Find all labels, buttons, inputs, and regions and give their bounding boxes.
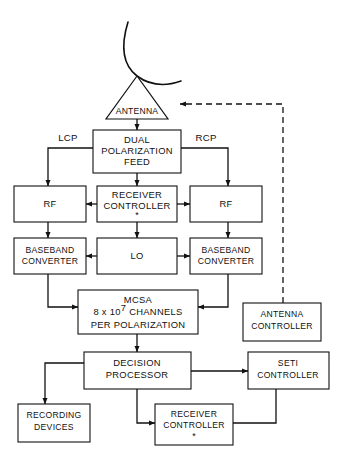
decision-processor-line1: DECISION — [113, 357, 161, 368]
baseband-converter-right-line2: CONVERTER — [198, 256, 255, 266]
parabolic-dish-icon — [124, 22, 181, 85]
receiver-controller-bottom-line2: CONTROLLER — [163, 420, 225, 430]
receiver-controller-bottom-marker: * — [192, 431, 196, 441]
edge-label-lcp: LCP — [58, 132, 78, 143]
node-dual-polarization-feed[interactable]: DUAL POLARIZATION FEED — [93, 130, 181, 173]
node-receiver-controller-bottom[interactable]: RECEIVER CONTROLLER * — [155, 404, 233, 445]
receiver-controller-bottom-line1: RECEIVER — [171, 409, 217, 419]
edge-feed-rcp-to-rf-right — [181, 148, 228, 186]
seti-block-diagram: ANTENNA — [0, 0, 341, 460]
baseband-converter-left-line1: BASEBAND — [25, 245, 74, 255]
receiver-controller-top-marker: * — [135, 210, 139, 220]
rf-right-label: RF — [219, 198, 232, 209]
node-recording-devices[interactable]: RECORDING DEVICES — [18, 404, 90, 442]
seti-controller-line1: SETI — [278, 358, 298, 368]
edge-feed-lcp-to-rf-left — [48, 148, 93, 186]
decision-processor-line2: PROCESSOR — [106, 369, 169, 380]
antenna-group: ANTENNA — [106, 22, 181, 119]
edge-label-rcp: RCP — [195, 132, 216, 143]
dual-polarization-feed-line1: DUAL — [124, 134, 150, 145]
node-seti-controller[interactable]: SETI CONTROLLER — [248, 352, 329, 389]
node-mcsa[interactable]: MCSA 8 x 107 CHANNELS PER POLARIZATION — [78, 290, 198, 334]
node-antenna-controller[interactable]: ANTENNA CONTROLLER — [243, 303, 321, 341]
antenna-controller-line1: ANTENNA — [260, 309, 303, 319]
antenna-controller-line2: CONTROLLER — [251, 321, 313, 331]
dual-polarization-feed-line3: FEED — [124, 156, 150, 167]
node-baseband-converter-left[interactable]: BASEBAND CONVERTER — [14, 238, 86, 274]
recording-devices-line1: RECORDING — [26, 410, 81, 420]
lo-label: LO — [130, 250, 143, 261]
rf-left-label: RF — [43, 198, 56, 209]
recording-devices-line2: DEVICES — [34, 422, 74, 432]
node-lo[interactable]: LO — [97, 238, 177, 274]
edge-decision-processor-to-receiver-controller-bottom — [137, 389, 155, 423]
baseband-converter-left-line2: CONVERTER — [22, 256, 79, 266]
node-receiver-controller-top[interactable]: RECEIVER CONTROLLER * — [97, 186, 177, 222]
mcsa-line3: PER POLARIZATION — [91, 319, 186, 330]
dual-polarization-feed-line2: POLARIZATION — [101, 145, 173, 156]
mcsa-channels-word: CHANNELS — [129, 306, 182, 317]
seti-controller-line2: CONTROLLER — [257, 370, 319, 380]
baseband-converter-right-line1: BASEBAND — [201, 245, 250, 255]
edge-decision-processor-to-recording-devices — [45, 363, 84, 404]
mcsa-channels-mantissa: 8 x 10 — [93, 306, 120, 317]
node-rf-right[interactable]: RF — [190, 186, 262, 222]
node-decision-processor[interactable]: DECISION PROCESSOR — [84, 352, 191, 389]
node-baseband-converter-right[interactable]: BASEBAND CONVERTER — [190, 238, 262, 274]
edge-baseband-right-to-mcsa — [198, 274, 228, 307]
antenna-label: ANTENNA — [116, 106, 159, 116]
diagram-canvas: ANTENNA — [0, 0, 341, 460]
mcsa-line1: MCSA — [124, 294, 153, 305]
node-rf-left[interactable]: RF — [14, 186, 86, 222]
edge-baseband-left-to-mcsa — [48, 274, 78, 307]
receiver-controller-top-line1: RECEIVER — [112, 189, 162, 200]
